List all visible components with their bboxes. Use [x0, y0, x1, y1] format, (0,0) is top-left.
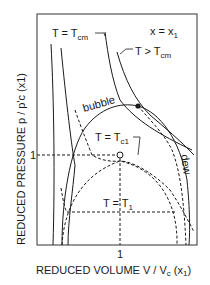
- dew-label: dew: [179, 154, 194, 176]
- composition-label: x = x1: [150, 25, 179, 40]
- t-cm-label: T = Tcm: [52, 27, 89, 42]
- leader-t-gt-cm: [120, 49, 133, 54]
- y-tick-1: 1: [30, 149, 36, 161]
- t-1-label: T = T1: [103, 197, 134, 212]
- isotherm-left-1: [51, 44, 54, 245]
- t-c1-label: T = Tc1: [95, 131, 130, 146]
- x-axis-label: REDUCED VOLUME V / Vc (x1): [36, 264, 191, 278]
- x-tick-1: 1: [117, 248, 123, 260]
- leader-t-c1: [133, 137, 140, 155]
- t-gt-cm-label: T > Tcm: [135, 45, 172, 60]
- bubble-label: bubble: [81, 93, 116, 114]
- pv-phase-diagram: x = x1 T = Tcm T > Tcm bubble dew T = Tc…: [0, 0, 210, 285]
- leader-t-cm: [95, 33, 105, 36]
- critical-point-cm: [135, 103, 140, 108]
- isotherm-t-c1: [75, 110, 194, 232]
- critical-point-c1: [117, 152, 123, 158]
- y-axis-label: REDUCED PRESSURE p / p'c (x1): [15, 73, 27, 245]
- dew-curve-dashed: [138, 106, 186, 245]
